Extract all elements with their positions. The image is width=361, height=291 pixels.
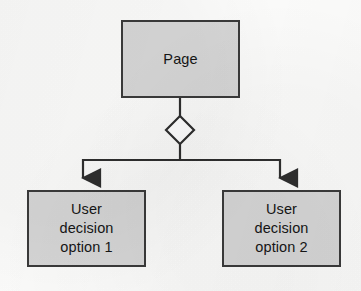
- node-user-decision-option-1-label: User decision option 1: [60, 200, 114, 257]
- node-page-label: Page: [163, 50, 197, 69]
- decision-diamond: [166, 116, 194, 144]
- node-user-decision-option-2[interactable]: User decision option 2: [222, 190, 341, 267]
- diagram-canvas: Page User decision option 1 User decisio…: [0, 0, 361, 291]
- node-user-decision-option-2-label: User decision option 2: [255, 200, 309, 257]
- node-page[interactable]: Page: [121, 20, 240, 98]
- node-user-decision-option-1[interactable]: User decision option 1: [27, 190, 146, 267]
